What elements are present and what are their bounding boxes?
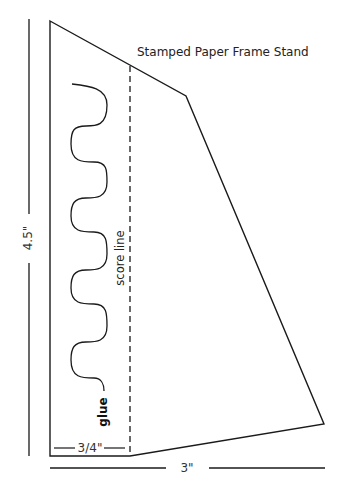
width-label: 3"	[180, 461, 193, 475]
glue-squiggle	[71, 84, 107, 391]
frame-stand-diagram: 4.5" 3" 3/4" score line glue Stamped Pap…	[0, 0, 342, 498]
diagram-title: Stamped Paper Frame Stand	[137, 45, 309, 59]
score-line-label: score line	[113, 230, 127, 285]
height-label: 4.5"	[21, 226, 35, 251]
flap-width-label: 3/4"	[78, 441, 103, 455]
glue-label: glue	[96, 397, 110, 426]
stand-outline	[50, 21, 324, 456]
